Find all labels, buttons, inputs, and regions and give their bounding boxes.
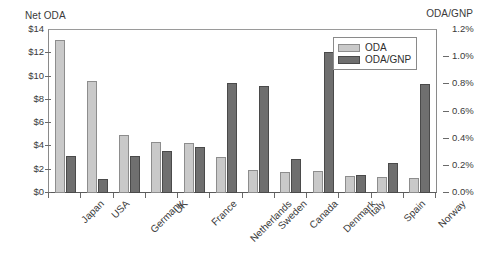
legend-label: ODA/GNP	[365, 55, 411, 65]
category-label: Japan	[79, 198, 106, 225]
category-label: USA	[109, 198, 131, 220]
bar-group	[49, 30, 81, 193]
right-tick-label: 1.2%	[452, 24, 474, 34]
bar-oda	[377, 177, 387, 193]
bar-oda-gnp	[130, 156, 140, 193]
bar-oda	[119, 135, 129, 193]
left-tick-label: $14	[28, 24, 44, 34]
right-tick-label: 0.0%	[452, 187, 474, 197]
right-tick-mark	[443, 83, 449, 84]
left-tick-label: $12	[28, 47, 44, 57]
right-tick-mark	[443, 138, 449, 139]
right-tick-mark	[443, 56, 449, 57]
left-tick-label: $6	[33, 117, 44, 127]
x-axis-labels: JapanUSAGermanyUKFranceNetherlandsSweden…	[0, 198, 477, 262]
bar-oda	[248, 170, 258, 193]
right-tick-label: 0.4%	[452, 133, 474, 143]
bar-oda	[409, 178, 419, 193]
right-tick-label: 0.2%	[452, 160, 474, 170]
bar-group	[114, 30, 146, 193]
chart-legend: ODAODA/GNP	[333, 37, 417, 70]
bar-oda	[87, 81, 97, 193]
bar-group	[178, 30, 210, 193]
right-tick-mark	[443, 111, 449, 112]
legend-label: ODA	[365, 43, 387, 53]
bar-group	[275, 30, 307, 193]
bar-oda	[55, 40, 65, 193]
bar-group	[81, 30, 113, 193]
bar-oda	[216, 157, 226, 193]
bar-group	[243, 30, 275, 193]
bar-oda	[345, 176, 355, 193]
bar-oda-gnp	[162, 151, 172, 193]
right-tick-mark	[443, 192, 449, 193]
left-tick-label: $8	[33, 94, 44, 104]
category-label: Canada	[307, 198, 340, 231]
category-label: France	[209, 198, 239, 228]
bar-oda	[151, 142, 161, 193]
right-axis-ticks: 0.0%0.2%0.4%0.6%0.8%1.0%1.2%	[443, 29, 477, 193]
chart-container: Net ODA ODA/GNP $0$2$4$6$8$10$12$14 0.0%…	[0, 0, 477, 262]
bar-oda-gnp	[259, 86, 269, 193]
legend-item: ODA/GNP	[338, 54, 411, 65]
bar-oda-gnp	[356, 175, 366, 193]
bar-oda	[184, 143, 194, 193]
left-tick-label: $0	[33, 187, 44, 197]
bar-group	[210, 30, 242, 193]
right-tick-mark	[443, 165, 449, 166]
left-axis-title: Net ODA	[25, 10, 66, 21]
bar-oda-gnp	[195, 147, 205, 193]
right-axis-title: ODA/GNP	[426, 8, 473, 19]
bar-oda	[280, 172, 290, 193]
bar-group	[146, 30, 178, 193]
legend-swatch-icon	[338, 56, 360, 64]
left-tick-label: $4	[33, 140, 44, 150]
bar-oda-gnp	[388, 163, 398, 193]
bar-oda-gnp	[324, 52, 334, 193]
bar-oda-gnp	[66, 156, 76, 193]
left-axis-ticks: $0$2$4$6$8$10$12$14	[4, 29, 44, 193]
left-tick-label: $2	[33, 164, 44, 174]
bar-oda-gnp	[291, 159, 301, 193]
left-tick-label: $10	[28, 71, 44, 81]
bar-oda-gnp	[98, 179, 108, 193]
legend-item: ODA	[338, 42, 411, 53]
right-tick-label: 0.6%	[452, 106, 474, 116]
legend-swatch-icon	[338, 44, 360, 52]
right-tick-label: 0.8%	[452, 78, 474, 88]
category-label: Norway	[436, 198, 468, 230]
right-tick-label: 1.0%	[452, 51, 474, 61]
bar-oda-gnp	[227, 83, 237, 193]
bar-oda-gnp	[420, 84, 430, 193]
category-label: Spain	[401, 198, 427, 224]
bar-oda	[313, 171, 323, 193]
